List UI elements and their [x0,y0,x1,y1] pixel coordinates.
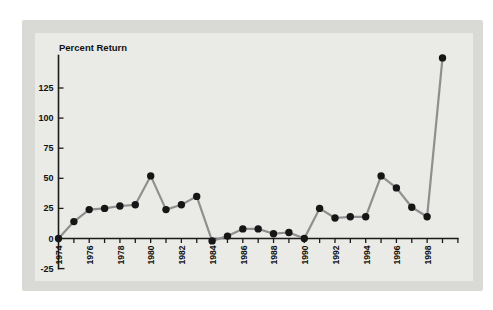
data-point [116,202,123,209]
data-point [301,235,308,242]
data-point [285,229,292,236]
data-point [270,230,277,237]
x-tick-label: 1986 [239,245,249,264]
data-point [439,54,446,61]
data-point [55,235,62,242]
data-point [362,213,369,220]
data-point [224,232,231,239]
data-point [208,237,215,244]
data-point [393,184,400,191]
y-tick-label: 75 [43,143,53,153]
x-tick-label: 1978 [116,245,126,264]
figure: Percent Return -250255075100125197419761… [0,0,493,310]
line-chart: Percent Return -250255075100125197419761… [0,0,493,310]
data-point [423,213,430,220]
plot-area [35,33,473,281]
data-point [408,204,415,211]
chart-title: Percent Return [59,42,127,53]
x-tick-label: 1974 [54,245,64,264]
x-tick-label: 1990 [300,245,310,264]
y-tick-label: 100 [38,113,53,123]
y-tick-label: 25 [43,203,53,213]
y-tick-label: 0 [48,234,53,244]
y-tick-label: 125 [38,83,53,93]
data-point [147,172,154,179]
y-tick-label: 50 [43,173,53,183]
y-tick-label: -25 [40,264,53,274]
x-tick-label: 1996 [392,245,402,264]
data-point [316,205,323,212]
x-tick-label: 1984 [208,245,218,264]
data-point [70,218,77,225]
data-point [86,206,93,213]
data-point [178,201,185,208]
x-tick-label: 1994 [362,245,372,264]
data-point [331,214,338,221]
x-tick-label: 1982 [177,245,187,264]
data-point [347,213,354,220]
data-point [255,225,262,232]
x-tick-label: 1992 [331,245,341,264]
data-point [162,206,169,213]
data-point [377,172,384,179]
data-point [101,205,108,212]
data-point [239,225,246,232]
x-tick-label: 1976 [85,245,95,264]
data-point [132,201,139,208]
data-point [193,193,200,200]
x-tick-label: 1980 [146,245,156,264]
x-tick-label: 1998 [423,245,433,264]
x-tick-label: 1988 [269,245,279,264]
